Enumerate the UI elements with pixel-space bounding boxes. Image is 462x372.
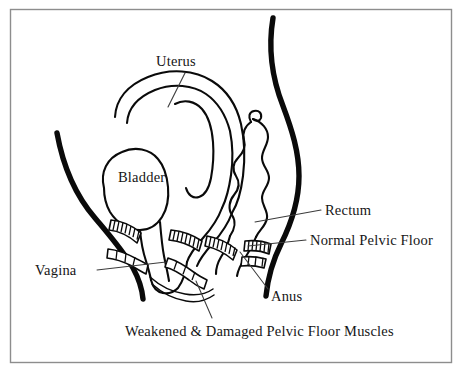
label-uterus: Uterus <box>156 54 196 69</box>
posterior-body-wall <box>266 18 299 296</box>
label-vagina: Vagina <box>35 263 76 278</box>
label-bladder: Bladder <box>118 170 165 185</box>
urethra-outline-right <box>160 222 169 281</box>
rectum-inner-wall <box>230 122 251 236</box>
rectum-outer-wall <box>253 119 269 237</box>
label-rectum: Rectum <box>325 203 371 218</box>
pelvic-anatomy-diagram: Uterus Bladder Vagina Rectum Normal Pelv… <box>0 0 462 372</box>
bladder-outline <box>103 149 168 230</box>
label-normal-pelvic-floor: Normal Pelvic Floor <box>310 233 433 248</box>
label-weakened-pelvic-floor-muscles: Weakened & Damaged Pelvic Floor Muscles <box>125 324 394 339</box>
leader-line-rectum <box>255 210 321 222</box>
rectum-superior-curve <box>249 111 261 122</box>
normal-pelvic-floor-band-middle <box>169 230 202 251</box>
anatomy-illustration <box>0 0 462 372</box>
uterine-cavity <box>175 101 213 197</box>
weakened-pelvic-floor-band-left <box>107 249 148 274</box>
label-anus: Anus <box>271 289 302 304</box>
